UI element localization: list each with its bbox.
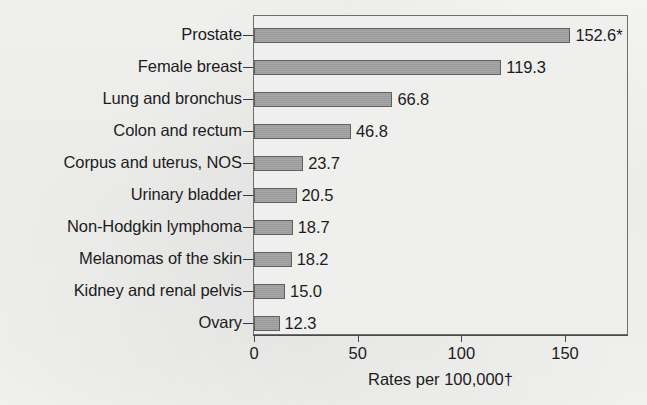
category-tick bbox=[243, 131, 253, 132]
category-label: Lung and bronchus bbox=[102, 91, 242, 106]
plot-area: 152.6*119.366.846.823.720.518.718.215.01… bbox=[253, 15, 628, 335]
bar bbox=[254, 188, 297, 203]
category-tick bbox=[243, 195, 253, 196]
x-tick bbox=[358, 335, 359, 342]
category-tick bbox=[243, 259, 253, 260]
bar bbox=[254, 124, 351, 139]
x-tick-label: 50 bbox=[348, 344, 366, 363]
bar bbox=[254, 316, 280, 331]
category-tick bbox=[243, 323, 253, 324]
bar bbox=[254, 60, 501, 75]
category-axis-labels: ProstateFemale breastLung and bronchusCo… bbox=[0, 15, 242, 335]
x-axis-title: Rates per 100,000† bbox=[253, 370, 628, 389]
category-tick bbox=[243, 67, 253, 68]
bars-container: 152.6*119.366.846.823.720.518.718.215.01… bbox=[254, 16, 627, 334]
x-tick-label: 100 bbox=[448, 344, 476, 363]
bar bbox=[254, 284, 285, 299]
category-label: Prostate bbox=[181, 27, 242, 42]
bar bbox=[254, 220, 293, 235]
category-label: Melanomas of the skin bbox=[79, 251, 242, 266]
category-tick bbox=[243, 291, 253, 292]
category-label: Colon and rectum bbox=[113, 123, 242, 138]
bar bbox=[254, 156, 303, 171]
bar-value-label: 119.3 bbox=[506, 60, 546, 75]
category-tick bbox=[243, 227, 253, 228]
category-label: Kidney and renal pelvis bbox=[74, 283, 242, 298]
chart-screenshot: ProstateFemale breastLung and bronchusCo… bbox=[0, 0, 647, 405]
category-label: Female breast bbox=[138, 59, 242, 74]
x-tick bbox=[461, 335, 462, 342]
bar bbox=[254, 28, 570, 43]
bar bbox=[254, 92, 392, 107]
x-tick bbox=[254, 335, 255, 342]
category-label: Corpus and uterus, NOS bbox=[64, 155, 242, 170]
bar-value-label: 18.2 bbox=[297, 252, 329, 267]
category-label: Non-Hodgkin lymphoma bbox=[67, 219, 242, 234]
category-tick bbox=[243, 163, 253, 164]
x-tick-label: 150 bbox=[551, 344, 579, 363]
bar-value-label: 18.7 bbox=[298, 220, 330, 235]
category-label: Ovary bbox=[198, 315, 242, 330]
bar-value-label: 23.7 bbox=[308, 156, 340, 171]
x-tick-label: 0 bbox=[249, 344, 258, 363]
bar-value-label: 15.0 bbox=[290, 284, 322, 299]
bar-value-label: 20.5 bbox=[302, 188, 334, 203]
x-axis-line bbox=[253, 335, 628, 336]
bar bbox=[254, 252, 292, 267]
category-label: Urinary bladder bbox=[131, 187, 242, 202]
bar-value-label: 46.8 bbox=[356, 124, 388, 139]
bar-value-label: 12.3 bbox=[285, 316, 317, 331]
bar-value-label: 152.6* bbox=[575, 28, 622, 43]
category-tick bbox=[243, 99, 253, 100]
x-tick bbox=[565, 335, 566, 342]
bar-value-label: 66.8 bbox=[397, 92, 429, 107]
category-tick bbox=[243, 35, 253, 36]
